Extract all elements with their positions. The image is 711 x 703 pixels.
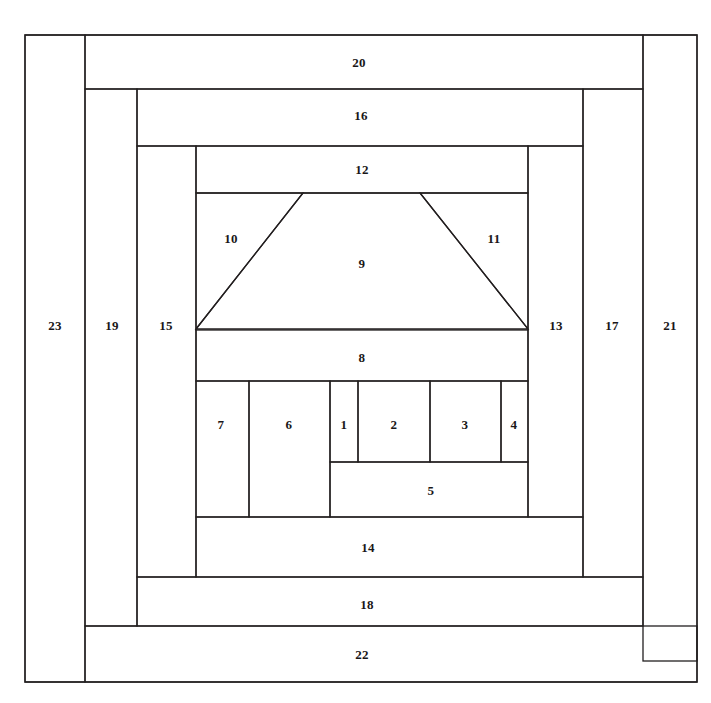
region-17-label: 17 xyxy=(605,318,619,333)
region-1-label: 1 xyxy=(341,417,348,432)
region-16-label: 16 xyxy=(354,108,368,123)
quilt-pattern-diagram: 1234567891011121314151617181920212223 xyxy=(0,0,711,703)
pattern-canvas: 1234567891011121314151617181920212223 xyxy=(0,0,711,703)
region-14-fill xyxy=(196,517,583,577)
region-22-label: 22 xyxy=(355,647,369,662)
region-4-label: 4 xyxy=(511,417,518,432)
region-8-label: 8 xyxy=(359,350,366,365)
region-19-fill xyxy=(85,89,137,626)
region-21-label: 21 xyxy=(663,318,677,333)
region-6-fill xyxy=(249,381,330,517)
region-11-label: 11 xyxy=(488,231,501,246)
region-23-label: 23 xyxy=(48,318,62,333)
region-14-label: 14 xyxy=(361,540,375,555)
region-22-fill xyxy=(85,626,697,682)
region-18-label: 18 xyxy=(360,597,374,612)
region-7-label: 7 xyxy=(218,417,225,432)
region-5-label: 5 xyxy=(428,483,435,498)
region-2-label: 2 xyxy=(391,417,398,432)
region-17-fill xyxy=(583,89,643,577)
region-21-fill xyxy=(643,35,697,661)
region-9-label: 9 xyxy=(359,256,366,271)
region-6-label: 6 xyxy=(286,417,293,432)
region-23-fill xyxy=(25,35,85,682)
region-18-fill xyxy=(137,577,643,626)
region-7-fill xyxy=(196,381,249,517)
region-15-label: 15 xyxy=(159,318,173,333)
region-3-label: 3 xyxy=(462,417,469,432)
region-10-label: 10 xyxy=(224,231,238,246)
region-12-label: 12 xyxy=(355,162,369,177)
region-19-label: 19 xyxy=(105,318,119,333)
region-15-fill xyxy=(137,146,196,577)
region-20-label: 20 xyxy=(352,55,366,70)
region-13-label: 13 xyxy=(549,318,563,333)
